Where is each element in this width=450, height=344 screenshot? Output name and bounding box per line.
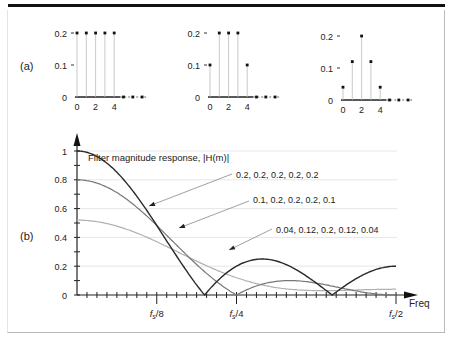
svg-text:4: 4	[245, 102, 250, 112]
svg-text:2: 2	[359, 105, 364, 115]
series-annotation: 0.2, 0.2, 0.2, 0.2, 0.2	[236, 170, 319, 180]
svg-text:0: 0	[328, 96, 333, 106]
svg-text:0: 0	[195, 93, 200, 103]
svg-text:0.2: 0.2	[54, 262, 67, 272]
svg-text:0.8: 0.8	[54, 175, 67, 185]
annotation-arrow-icon	[229, 245, 235, 250]
svg-text:0: 0	[62, 93, 67, 103]
series-annotation: 0.04, 0.12, 0.2, 0.12, 0.04	[276, 225, 379, 235]
svg-text:4: 4	[378, 105, 383, 115]
svg-text:2: 2	[226, 102, 231, 112]
chart-title: Filter magnitude response, |H(m)|	[88, 152, 229, 163]
svg-text:0.2: 0.2	[187, 29, 200, 39]
svg-text:0.1: 0.1	[187, 61, 200, 71]
svg-text:0.6: 0.6	[54, 204, 67, 214]
figure-svg: 00.10.202400.10.202400.10.202400.20.40.6…	[0, 0, 450, 344]
frequency-response-plot: 00.20.40.60.81fs/8fs/4fs/2FreqFilter mag…	[54, 133, 429, 320]
stem-plot-a2: 00.10.2024	[187, 29, 279, 113]
svg-text:0.1: 0.1	[54, 61, 67, 71]
svg-text:0: 0	[62, 291, 67, 301]
annotation-arrow-icon	[179, 224, 185, 228]
svg-text:fs/4: fs/4	[229, 308, 243, 320]
stem-plot-a1: 00.10.2024	[54, 29, 146, 113]
svg-text:0.4: 0.4	[54, 233, 67, 243]
svg-text:1: 1	[62, 147, 67, 157]
svg-text:0.2: 0.2	[54, 29, 67, 39]
svg-text:4: 4	[112, 102, 117, 112]
svg-text:fs/2: fs/2	[389, 308, 403, 320]
stem-plot-a3: 00.10.2024	[320, 32, 412, 116]
svg-text:0: 0	[340, 105, 345, 115]
annotation-arrow-icon	[149, 202, 155, 206]
svg-text:0.1: 0.1	[320, 64, 333, 74]
svg-text:0: 0	[74, 102, 79, 112]
series-annotation: 0.1, 0.2, 0.2, 0.2, 0.1	[253, 195, 336, 205]
y-axis-arrow-icon	[74, 133, 81, 146]
x-axis-label: Freq	[409, 298, 430, 309]
svg-text:0: 0	[207, 102, 212, 112]
svg-text:fs/8: fs/8	[150, 308, 164, 320]
svg-text:0.2: 0.2	[320, 32, 333, 42]
svg-text:2: 2	[93, 102, 98, 112]
